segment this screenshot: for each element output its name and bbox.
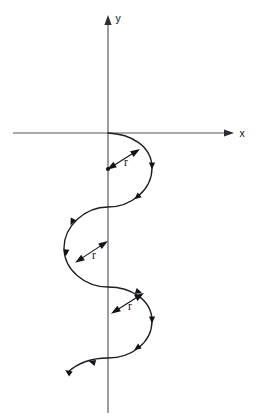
radius-1-label: r — [124, 156, 128, 168]
diagram-svg: r r r x y — [0, 0, 262, 420]
radius-2-arrowhead-inner — [75, 255, 85, 263]
radius-2-arrowhead-outer — [98, 241, 108, 249]
y-axis-arrowhead — [104, 15, 111, 25]
x-axis-arrowhead — [224, 129, 234, 136]
curve-direction-marker — [149, 163, 155, 170]
y-axis-group — [104, 15, 111, 413]
curve-direction-marker — [63, 249, 70, 257]
radius-1-arrowhead-outer — [130, 149, 140, 157]
radius-marker-1: r — [106, 149, 140, 171]
y-axis-label: y — [115, 12, 121, 24]
radius-3-label: r — [128, 300, 132, 312]
x-axis-label: x — [239, 127, 245, 139]
radius-marker-3: r — [111, 293, 144, 314]
curve-direction-marker — [149, 317, 155, 324]
figure-canvas: r r r x y — [0, 0, 262, 420]
radius-3-arrowhead-inner — [111, 306, 121, 314]
radius-2-label: r — [92, 249, 96, 261]
radius-marker-2: r — [75, 241, 108, 263]
